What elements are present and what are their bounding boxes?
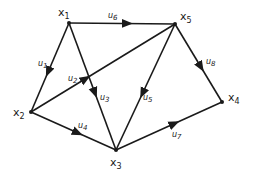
edge-label-u2: u2 [68,74,78,85]
edge-label-subscript: 5 [148,96,153,104]
edge-label-subscript: 2 [73,77,78,85]
node-label-subscript: 4 [235,97,240,106]
edge-label-u4: u4 [78,121,88,132]
node-label-x4: x4 [228,91,240,106]
node-label-x2: x2 [13,106,25,121]
edge-u3 [69,23,116,150]
arrow-icon [75,132,78,133]
edge-label-u5: u5 [143,93,153,104]
node-label-x5: x5 [180,10,192,25]
edge-label-u3: u3 [100,93,110,104]
node-x3 [114,148,118,152]
arrow-icon [48,69,49,72]
edges-group [31,23,222,150]
edge-label-subscript: 8 [211,60,216,68]
labels-group: u1u2u3u4u5u6u7u8x1x5x4x2x3 [13,6,240,171]
arrow-icon [83,79,86,81]
edge-label-u1: u1 [38,59,48,70]
edge-label-subscript: 3 [105,96,109,104]
edge-label-subscript: 6 [113,14,118,22]
node-label-x1: x1 [58,6,70,21]
edge-label-subscript: 7 [177,133,182,141]
edge-label-u6: u6 [108,11,118,22]
node-x5 [173,22,177,26]
edge-label-subscript: 4 [83,124,87,132]
nodes-group [29,21,224,152]
graph-svg: u1u2u3u4u5u6u7u8x1x5x4x2x3 [0,0,253,174]
edge-u7 [116,102,222,150]
arrow-icon [172,124,175,125]
node-x4 [220,100,224,104]
node-label-x3: x3 [110,156,122,171]
edge-u6 [69,23,175,24]
directed-graph-diagram: u1u2u3u4u5u6u7u8x1x5x4x2x3 [0,0,253,174]
node-x2 [29,110,33,114]
node-label-subscript: 1 [65,12,70,21]
edge-label-u7: u7 [172,130,182,141]
arrow-icon [199,64,201,67]
node-label-subscript: 5 [187,16,192,25]
node-label-subscript: 3 [117,162,122,171]
edge-label-subscript: 1 [43,62,47,70]
node-x1 [67,21,71,25]
edge-u1 [31,23,69,112]
edge-label-u8: u8 [206,57,216,68]
node-label-subscript: 2 [20,112,25,121]
arrow-icon [94,90,95,93]
